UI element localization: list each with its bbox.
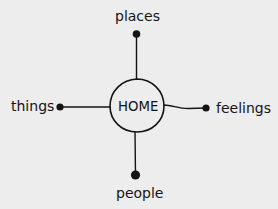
node-dot-things [56,103,63,110]
connector-feelings [164,105,206,109]
branch-label-things: things [11,98,54,114]
branch-label-feelings: feelings [216,100,271,116]
mind-map-canvas: HOME places things feelings people [0,0,278,209]
center-node-label: HOME [118,98,157,114]
branch-label-people: people [116,185,163,201]
node-dot-people [131,170,140,179]
branch-label-places: places [115,8,160,24]
node-dot-places [133,30,141,38]
node-dot-feelings [202,104,209,111]
connector-people [135,132,136,175]
